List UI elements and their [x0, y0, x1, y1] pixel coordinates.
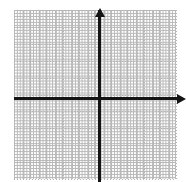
grid-line-horizontal [14, 95, 176, 96]
grid-line-horizontal [14, 128, 176, 129]
y-axis-arrow-icon [95, 8, 105, 17]
grid-line-horizontal [14, 44, 176, 45]
grid-line-horizontal [14, 162, 176, 163]
grid-line-horizontal [14, 179, 176, 180]
grid-line-horizontal [14, 145, 176, 146]
grid-line-horizontal [14, 111, 176, 112]
y-axis-line [98, 10, 101, 182]
grid-lines [14, 10, 176, 179]
x-axis-line [14, 97, 179, 100]
grid-line-horizontal [14, 78, 176, 79]
grid-line-horizontal [14, 27, 176, 28]
coordinate-plane-figure [0, 0, 186, 182]
x-axis-arrow-icon [177, 94, 186, 104]
grid-line-horizontal [14, 61, 176, 62]
